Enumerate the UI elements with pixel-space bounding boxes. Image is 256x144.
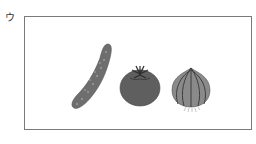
vegetable-illustration — [0, 0, 256, 144]
tomato-icon — [120, 66, 160, 106]
onion-icon — [172, 68, 210, 112]
cucumber-icon — [72, 44, 111, 108]
